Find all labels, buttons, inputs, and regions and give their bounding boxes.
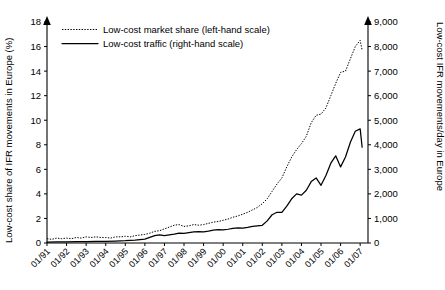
- legend-label-traffic: Low-cost traffic (right-hand scale): [103, 38, 243, 49]
- y-tick-label: 6: [36, 164, 41, 175]
- y2-tick-label: 7,000: [374, 66, 398, 77]
- y2-tick-label: 0: [374, 237, 379, 248]
- y2-tick-label: 9,000: [374, 16, 398, 27]
- y2-tick-label: 1,000: [374, 213, 398, 224]
- y2-axis-title: Low-cost IFR movements/day in Europe: [435, 22, 445, 191]
- low-cost-carrier-chart: Low-cost share of IFR movements in Europ…: [0, 0, 445, 290]
- y-tick-label: 4: [36, 188, 41, 199]
- y2-tick-label: 2,000: [374, 188, 398, 199]
- legend-label-market-share: Low-cost market share (left-hand scale): [103, 24, 270, 35]
- y-tick-label: 2: [36, 213, 41, 224]
- y2-tick-label: 8,000: [374, 41, 398, 52]
- y-tick-label: 14: [30, 66, 41, 77]
- y-tick-label: 18: [30, 16, 41, 27]
- y-tick-label: 8: [36, 139, 41, 150]
- y-tick-label: 12: [30, 90, 41, 101]
- y-tick-label: 0: [36, 237, 41, 248]
- y-axis-title: Low-cost share of IFR movements in Europ…: [3, 38, 14, 243]
- y2-tick-label: 3,000: [374, 164, 398, 175]
- y2-tick-label: 6,000: [374, 90, 398, 101]
- y-tick-label: 10: [30, 115, 41, 126]
- y2-tick-label: 4,000: [374, 139, 398, 150]
- chart-container: Low-cost share of IFR movements in Europ…: [0, 0, 445, 290]
- y2-tick-label: 5,000: [374, 115, 398, 126]
- y-tick-label: 16: [30, 41, 41, 52]
